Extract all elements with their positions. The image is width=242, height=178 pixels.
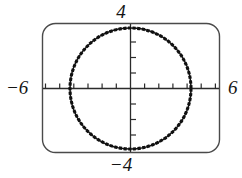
window-xmax-label: 6 <box>228 78 238 97</box>
window-xmin-label: −6 <box>6 78 28 97</box>
window-ymin-label: −4 <box>0 155 242 174</box>
calculator-screen: 4 −4 −6 6 <box>0 0 242 178</box>
window-ymax-label: 4 <box>0 2 242 21</box>
graph-canvas <box>0 0 242 178</box>
